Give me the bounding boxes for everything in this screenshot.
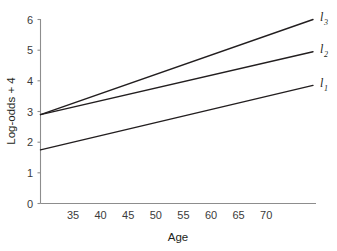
y-axis-title: Log-odds + 4 (5, 77, 17, 145)
series-label-l1: l 1 (320, 76, 328, 93)
axes-group (41, 19, 317, 204)
x-tick-label-65: 65 (232, 209, 244, 221)
y-tick-label-0: 0 (27, 198, 33, 210)
chart-figure: 0 1 2 3 4 5 6 35 40 45 50 55 60 65 70 Ag… (0, 0, 337, 251)
x-tick-label-60: 60 (205, 209, 217, 221)
series-line-l1 (41, 85, 314, 149)
x-tick-label-50: 50 (150, 209, 162, 221)
x-tick-label-35: 35 (67, 209, 79, 221)
y-tick-label-3: 3 (27, 106, 33, 118)
series-labels-group: l 3 l 2 l 1 (320, 10, 328, 93)
x-axis-title: Age (168, 231, 188, 243)
y-tick-label-5: 5 (27, 44, 33, 56)
y-tick-labels: 0 1 2 3 4 5 6 (27, 14, 33, 210)
log-odds-age-line-chart: 0 1 2 3 4 5 6 35 40 45 50 55 60 65 70 Ag… (0, 0, 337, 251)
data-series-group (41, 20, 314, 150)
y-tick-label-6: 6 (27, 14, 33, 26)
series-label-l1-subscript: 1 (324, 84, 328, 93)
x-tick-label-45: 45 (122, 209, 134, 221)
series-label-l3: l 3 (320, 10, 328, 27)
x-tick-label-55: 55 (177, 209, 189, 221)
series-label-l3-subscript: 3 (323, 18, 328, 27)
series-line-l3 (41, 20, 314, 115)
y-tick-label-2: 2 (27, 136, 33, 148)
y-tick-label-4: 4 (27, 75, 33, 87)
series-label-l2: l 2 (320, 42, 328, 59)
x-tick-label-40: 40 (94, 209, 106, 221)
x-tick-label-70: 70 (260, 209, 272, 221)
series-label-l2-subscript: 2 (324, 50, 328, 59)
series-line-l2 (41, 52, 314, 115)
y-tick-label-1: 1 (27, 167, 33, 179)
x-tick-labels: 35 40 45 50 55 60 65 70 (67, 209, 272, 221)
